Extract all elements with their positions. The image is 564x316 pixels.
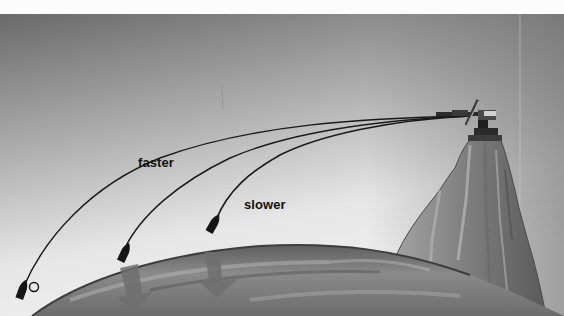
label-slower: slower (244, 198, 286, 211)
illustration-frame: faster slower (0, 0, 564, 316)
label-faster: faster (138, 156, 174, 169)
top-margin (0, 0, 564, 14)
scene: faster slower (0, 14, 564, 316)
